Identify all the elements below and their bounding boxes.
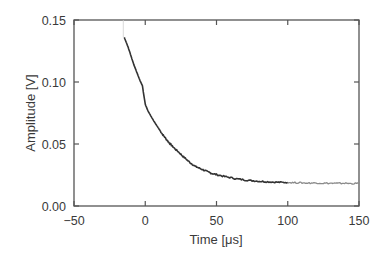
x-tick-label: 0 — [142, 214, 149, 228]
x-axis-ticks: −50050100150 — [63, 20, 369, 228]
x-tick-label: −50 — [63, 214, 84, 228]
decay-curve-tail — [288, 182, 359, 184]
y-tick-label: 0.10 — [42, 76, 66, 90]
x-tick-label: 150 — [349, 214, 370, 228]
data-series — [123, 20, 359, 184]
x-tick-label: 50 — [210, 214, 224, 228]
plot-frame — [74, 20, 359, 206]
plot-border — [74, 20, 359, 206]
y-tick-label: 0.00 — [42, 200, 66, 214]
decay-curve — [124, 37, 287, 183]
amplitude-vs-time-chart: 0.000.050.100.15 −50050100150 Time [μs] … — [0, 0, 385, 256]
y-tick-label: 0.05 — [42, 138, 66, 152]
y-tick-label: 0.15 — [42, 14, 66, 28]
y-axis-label: Amplitude [V] — [23, 74, 38, 151]
x-axis-label: Time [μs] — [189, 232, 242, 247]
x-tick-label: 100 — [277, 214, 298, 228]
